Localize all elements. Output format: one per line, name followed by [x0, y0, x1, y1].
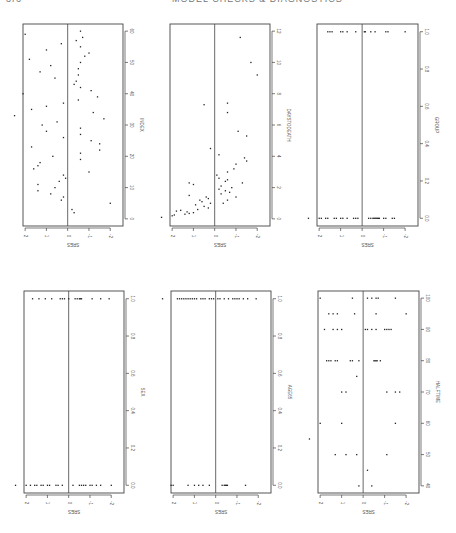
data-point [385, 31, 386, 32]
x-axis-label: HALFTIME [435, 381, 440, 403]
y-tick-label: 1 [339, 235, 344, 238]
data-point [243, 298, 244, 299]
data-point [31, 109, 32, 110]
data-point [60, 298, 61, 299]
data-point [218, 154, 219, 155]
y-tick-label: -1 [382, 234, 387, 238]
data-point [81, 298, 82, 299]
x-tick-label: 0.6 [130, 370, 135, 377]
data-point [257, 74, 258, 75]
x-tick-label: 0.0 [424, 215, 429, 222]
data-point [110, 203, 111, 204]
data-point [209, 298, 210, 299]
x-tick-label: 0.8 [424, 66, 429, 73]
x-tick-label: 0.2 [424, 178, 429, 185]
data-point [45, 298, 46, 299]
data-point [43, 485, 44, 486]
data-point [184, 214, 185, 215]
data-point [387, 31, 388, 32]
x-tick-label: 100 [425, 294, 430, 302]
data-point [194, 485, 195, 486]
data-point [327, 218, 328, 219]
data-point [246, 160, 247, 161]
data-point [346, 218, 347, 219]
data-point [337, 313, 338, 314]
data-point [332, 329, 333, 330]
data-point [367, 298, 368, 299]
data-point [390, 329, 391, 330]
data-point [224, 298, 225, 299]
data-point [208, 207, 209, 208]
data-point [335, 454, 336, 455]
data-point [218, 178, 219, 179]
data-point [161, 217, 162, 218]
x-tick-label: 0 [276, 218, 281, 221]
data-point [79, 485, 80, 486]
x-tick-label: 0.4 [277, 408, 282, 415]
data-point [395, 423, 396, 424]
data-point [201, 201, 202, 202]
x-tick-label: 0.8 [277, 333, 282, 340]
data-point [365, 329, 366, 330]
data-point [30, 485, 31, 486]
plot-frame [318, 291, 419, 493]
data-point [61, 43, 62, 44]
x-tick-label: 0.2 [130, 445, 135, 452]
data-point [64, 298, 65, 299]
data-point [227, 179, 228, 180]
data-point [354, 313, 355, 314]
data-point [345, 454, 346, 455]
data-point [57, 485, 58, 486]
data-point [180, 210, 181, 211]
data-point [189, 213, 190, 214]
data-point [336, 218, 337, 219]
y-tick-label: -2 [255, 234, 260, 238]
data-point [40, 485, 41, 486]
data-point [385, 218, 386, 219]
data-point [99, 149, 100, 150]
x-tick-label: 20 [129, 154, 134, 160]
y-tick-label: -1 [383, 501, 388, 505]
data-point [233, 168, 234, 169]
data-point [78, 68, 79, 69]
x-axis-label: SEX [140, 387, 145, 396]
data-point [73, 212, 74, 213]
data-point [196, 298, 197, 299]
y-tick-label: -2 [403, 234, 408, 238]
data-point [173, 485, 174, 486]
data-point [39, 71, 40, 72]
data-point [374, 31, 375, 32]
data-point [177, 298, 178, 299]
data-point [371, 329, 372, 330]
data-point [62, 485, 63, 486]
data-point [213, 298, 214, 299]
x-tick-label: 4 [276, 155, 281, 158]
y-axis-label: SRES [215, 509, 227, 514]
data-point [189, 182, 190, 183]
data-point [162, 298, 163, 299]
x-tick-label: 6 [276, 124, 281, 127]
data-point [328, 313, 329, 314]
data-point [308, 218, 309, 219]
data-point [250, 62, 251, 63]
data-point [97, 96, 98, 97]
data-point [334, 218, 335, 219]
data-point [187, 298, 188, 299]
data-point [386, 329, 387, 330]
data-point [342, 218, 343, 219]
x-tick-label: 8 [276, 92, 281, 95]
data-point [193, 212, 194, 213]
data-point [26, 485, 27, 486]
x-tick-label: 2 [276, 186, 281, 189]
page-number: 376 [6, 0, 21, 4]
x-axis-label: AGE65 [287, 385, 292, 400]
data-point [46, 106, 47, 107]
residual-plot-index: 0102030405060INDEX210-1-2SRES [23, 24, 123, 226]
data-point [31, 146, 32, 147]
x-tick-label: 0.0 [277, 482, 282, 489]
y-tick-label: 0 [213, 235, 218, 238]
x-axis-label: DAYSTODEATH [286, 108, 291, 141]
data-point [22, 93, 23, 94]
y-axis-label: SRES [68, 509, 80, 514]
data-point [200, 298, 201, 299]
